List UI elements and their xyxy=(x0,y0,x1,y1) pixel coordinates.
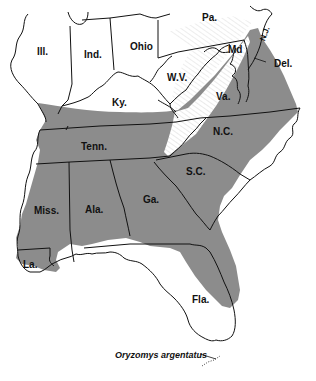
state-label-la: La. xyxy=(23,260,37,270)
state-label-ind: Ind. xyxy=(84,50,102,60)
state-label-md: Md xyxy=(228,45,242,55)
state-label-tenn: Tenn. xyxy=(81,142,107,152)
state-label-ga: Ga. xyxy=(143,195,159,205)
state-label-sc: S.C. xyxy=(186,167,205,177)
state-label-pa: Pa. xyxy=(202,13,217,23)
state-label-del: Del. xyxy=(274,59,292,69)
state-label-miss: Miss. xyxy=(34,206,59,216)
state-label-ala: Ala. xyxy=(85,205,103,215)
state-label-ky: Ky. xyxy=(112,98,127,108)
species-label: Oryzomys argentatus xyxy=(115,351,207,360)
state-label-ohio: Ohio xyxy=(130,42,153,52)
state-label-ill: Ill. xyxy=(37,47,48,57)
distribution-map xyxy=(0,0,316,381)
range-shading xyxy=(16,28,298,308)
state-label-va: Va. xyxy=(216,92,230,102)
state-label-wv: W.V. xyxy=(167,73,187,83)
state-label-nc: N.C. xyxy=(213,127,233,137)
state-label-fla: Fla. xyxy=(192,295,209,305)
